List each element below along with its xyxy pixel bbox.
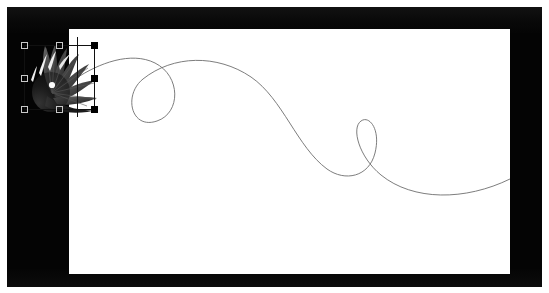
handle-top-left[interactable] (21, 42, 28, 49)
handle-bottom-left[interactable] (21, 106, 28, 113)
handle-top-center[interactable] (56, 42, 63, 49)
handle-top-right[interactable] (91, 42, 98, 49)
butterfly-body-shade (32, 72, 70, 112)
canvas-workspace[interactable] (7, 7, 542, 287)
handle-bottom-center[interactable] (56, 106, 63, 113)
screenshot-root (0, 0, 549, 293)
handle-bottom-right[interactable] (91, 106, 98, 113)
butterfly-eyespot (49, 82, 55, 88)
handle-middle-right[interactable] (91, 75, 98, 82)
vector-path-layer (69, 29, 510, 274)
spiral-swash-path[interactable] (75, 58, 510, 195)
artboard-page[interactable] (69, 29, 510, 274)
butterfly-wing-graphic[interactable] (21, 40, 99, 114)
handle-middle-left[interactable] (21, 75, 28, 82)
